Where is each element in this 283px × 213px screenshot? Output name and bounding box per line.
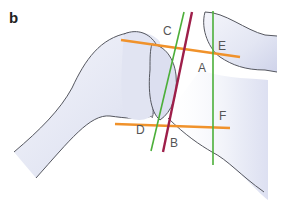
point-label-e: E bbox=[218, 40, 226, 52]
diagram-canvas: b C A E D B F bbox=[0, 0, 283, 213]
point-label-c: C bbox=[163, 25, 172, 37]
point-label-a: A bbox=[198, 62, 206, 74]
acromion bbox=[204, 12, 277, 72]
scapula-body bbox=[165, 70, 268, 200]
panel-label: b bbox=[9, 9, 18, 26]
shoulder-illustration bbox=[0, 0, 283, 213]
point-label-d: D bbox=[136, 124, 145, 136]
point-label-b: B bbox=[170, 137, 178, 149]
point-label-f: F bbox=[219, 110, 226, 122]
